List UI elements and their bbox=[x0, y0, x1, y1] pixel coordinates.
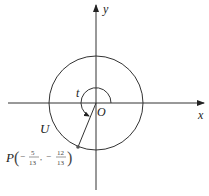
svg-text:,: , bbox=[40, 153, 42, 162]
svg-text:13: 13 bbox=[29, 159, 37, 167]
y-axis-label: y bbox=[102, 2, 109, 16]
svg-text:13: 13 bbox=[57, 159, 65, 167]
unit-circle-diagram: y x O t U P ( − 5 13 , − 12 13 ) bbox=[0, 0, 209, 196]
x-axis-label: x bbox=[197, 108, 204, 122]
origin-label: O bbox=[97, 105, 106, 119]
svg-text:12: 12 bbox=[57, 149, 65, 157]
svg-text:5: 5 bbox=[31, 149, 35, 157]
svg-text:P: P bbox=[5, 150, 14, 165]
svg-text:(: ( bbox=[14, 149, 19, 167]
circle-label: U bbox=[40, 121, 51, 136]
svg-text:): ) bbox=[67, 149, 72, 167]
point-p-label: P ( − 5 13 , − 12 13 ) bbox=[5, 149, 72, 167]
radius-segment bbox=[78, 103, 96, 147]
svg-text:−: − bbox=[46, 151, 51, 161]
point-p bbox=[76, 145, 80, 149]
svg-text:−: − bbox=[20, 151, 25, 161]
angle-label: t bbox=[76, 86, 80, 100]
